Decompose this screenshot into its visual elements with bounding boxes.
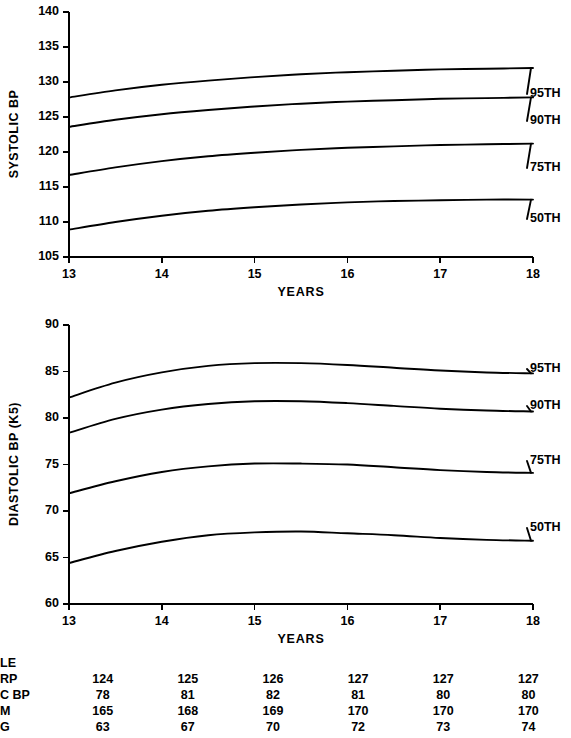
y-tick-label: 120 (21, 144, 59, 158)
table-cell: 169 (230, 703, 315, 719)
x-tick-label: 18 (513, 267, 553, 281)
y-tick-label: 75 (21, 457, 59, 471)
x-tick-label: 16 (327, 614, 367, 628)
table-row-label: M (0, 703, 60, 719)
table-cell: 127 (316, 671, 401, 687)
y-tick-label: 65 (21, 550, 59, 564)
y-tick-label: 70 (21, 503, 59, 517)
systolic-bp-chart: SYSTOLIC BP YEARS 1051101151201251301351… (0, 0, 571, 310)
x-tick-label: 15 (235, 614, 275, 628)
series-label-90th: 90TH (530, 398, 561, 412)
table-row: RP124125126127127127 (0, 671, 571, 687)
series-label-50th: 50TH (530, 520, 561, 534)
series-label-75th: 75TH (530, 160, 561, 174)
table-row-label: C BP (0, 687, 60, 703)
y-tick-label: 135 (21, 39, 59, 53)
y-tick-label: 105 (21, 249, 59, 263)
x-tick-label: 17 (420, 614, 460, 628)
y-tick-label: 110 (21, 214, 59, 228)
table-row: G636770727374 (0, 719, 571, 735)
y-tick-label: 140 (21, 4, 59, 18)
x-tick-label: 14 (142, 614, 182, 628)
table-cell: 125 (145, 671, 230, 687)
table-row-label: RP (0, 671, 60, 687)
x-tick-label: 13 (49, 614, 89, 628)
x-tick-label: 18 (513, 614, 553, 628)
y-tick-label: 80 (21, 410, 59, 424)
table-cell: 78 (60, 687, 145, 703)
table-cell: 126 (230, 671, 315, 687)
table-row: C BP788182818080 (0, 687, 571, 703)
table-cell: 165 (60, 703, 145, 719)
blood-pressure-percentile-figure: SYSTOLIC BP YEARS 1051101151201251301351… (0, 0, 571, 738)
x-tick-label: 16 (327, 267, 367, 281)
y-tick-label: 125 (21, 109, 59, 123)
table-cell: 72 (316, 719, 401, 735)
table-cell: 170 (316, 703, 401, 719)
table-cell: 170 (486, 703, 571, 719)
table-cell: 81 (316, 687, 401, 703)
table-cell: 81 (145, 687, 230, 703)
series-label-95th: 95TH (530, 86, 561, 100)
table-cell: 82 (230, 687, 315, 703)
table: LERP124125126127127127C BP788182818080M1… (0, 655, 571, 735)
table-title-row: LE (0, 655, 571, 671)
table-cell: 74 (486, 719, 571, 735)
table-cell: 127 (401, 671, 486, 687)
table-cell: 63 (60, 719, 145, 735)
y-tick-label: 85 (21, 364, 59, 378)
summary-data-table: LERP124125126127127127C BP788182818080M1… (0, 655, 571, 738)
x-tick-label: 15 (235, 267, 275, 281)
series-label-95th: 95TH (530, 361, 561, 375)
x-tick-label: 14 (142, 267, 182, 281)
table-cell: 80 (486, 687, 571, 703)
x-tick-label: 13 (49, 267, 89, 281)
table-row: M165168169170170170 (0, 703, 571, 719)
table-cell: 127 (486, 671, 571, 687)
diastolic-bp-chart: DIASTOLIC BP (K5) YEARS 6065707580859013… (0, 316, 571, 652)
series-label-90th: 90TH (530, 113, 561, 127)
table-cell: 73 (401, 719, 486, 735)
table-title: LE (0, 655, 60, 671)
diastolic-plot-area (0, 316, 571, 652)
table-cell: 80 (401, 687, 486, 703)
series-label-50th: 50TH (530, 211, 561, 225)
table-cell: 70 (230, 719, 315, 735)
y-tick-label: 90 (21, 317, 59, 331)
y-tick-label: 130 (21, 74, 59, 88)
x-tick-label: 17 (420, 267, 460, 281)
table-cell: 170 (401, 703, 486, 719)
y-tick-label: 115 (21, 179, 59, 193)
table-title-spacer (60, 655, 571, 671)
y-tick-label: 60 (21, 596, 59, 610)
table-cell: 168 (145, 703, 230, 719)
systolic-plot-area (0, 0, 571, 310)
table-cell: 124 (60, 671, 145, 687)
series-label-75th: 75TH (530, 453, 561, 467)
table-cell: 67 (145, 719, 230, 735)
table-row-label: G (0, 719, 60, 735)
